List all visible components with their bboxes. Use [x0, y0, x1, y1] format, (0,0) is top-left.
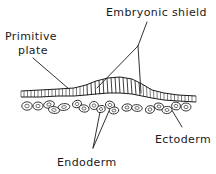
- label-primitive-plate-line1: Primitive: [5, 30, 57, 43]
- leader-endoderm-left: [93, 112, 100, 148]
- leader-primitive-plate: [33, 58, 69, 89]
- endoderm-cell: [121, 103, 132, 112]
- leader-endoderm-right: [93, 111, 109, 148]
- band-lower-contour: [21, 93, 196, 102]
- endoderm-cell: [131, 104, 142, 112]
- label-embryonic-shield: Embryonic shield: [106, 6, 207, 19]
- embryo-cross-section-figure: Embryonic shield Primitive plate Endoder…: [0, 0, 216, 174]
- endoderm-cell: [58, 103, 70, 111]
- leader-embryonic-shield-stem: [138, 22, 147, 46]
- label-ectoderm: Ectoderm: [155, 133, 211, 146]
- endoderm-cell: [33, 102, 43, 110]
- endoderm-cell: [181, 103, 191, 111]
- endoderm-cell-cluster: [22, 99, 191, 114]
- endoderm-cell: [171, 101, 181, 110]
- label-primitive-plate-line2: plate: [18, 44, 48, 57]
- endoderm-cell: [145, 105, 156, 115]
- endoderm-cell: [78, 104, 89, 113]
- label-endoderm: Endoderm: [57, 156, 117, 169]
- epithelial-band: [21, 77, 196, 102]
- endoderm-cell: [22, 102, 32, 110]
- figure-canvas: Embryonic shield Primitive plate Endoder…: [0, 0, 216, 174]
